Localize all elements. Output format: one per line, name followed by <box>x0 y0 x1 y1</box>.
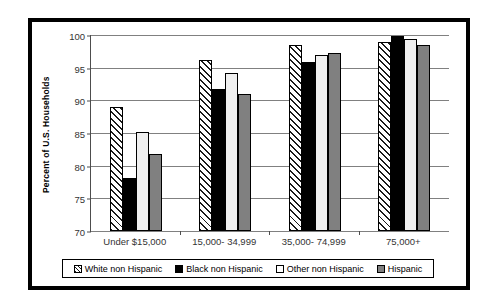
legend-item[interactable]: Other non Hispanic <box>276 264 364 274</box>
bar[interactable] <box>391 36 404 231</box>
y-tick-label: 85 <box>74 129 85 140</box>
gridline: 70 <box>91 231 449 232</box>
plot-area: 707580859095100 <box>90 35 449 232</box>
y-axis-title: Percent of U.S. Households <box>38 40 54 230</box>
bar[interactable] <box>123 178 136 231</box>
chart-legend: White non HispanicBlack non HispanicOthe… <box>62 259 434 278</box>
x-axis-category-label: 15,000- 34,999 <box>180 236 270 247</box>
bars-container <box>289 35 341 231</box>
legend-label: Black non Hispanic <box>186 264 263 274</box>
bar[interactable] <box>417 45 430 231</box>
x-axis-category-label: 75,000+ <box>359 236 449 247</box>
bar[interactable] <box>328 53 341 231</box>
legend-swatch-icon <box>377 265 385 273</box>
legend-item[interactable]: Hispanic <box>377 264 423 274</box>
legend-swatch-icon <box>276 265 284 273</box>
bar[interactable] <box>289 45 302 231</box>
bar[interactable] <box>110 107 123 231</box>
bar[interactable] <box>315 55 328 231</box>
bars-container <box>110 35 162 231</box>
y-tick-label: 70 <box>74 227 85 238</box>
bar-group <box>360 35 450 231</box>
x-axis-category-label: 35,000- 74,999 <box>269 236 359 247</box>
bar[interactable] <box>136 132 149 231</box>
legend-item[interactable]: Black non Hispanic <box>175 264 263 274</box>
bar[interactable] <box>199 60 212 231</box>
x-axis-category-label: Under $15,000 <box>90 236 180 247</box>
y-tick-mark <box>87 232 91 233</box>
x-axis-group-tick <box>359 231 360 235</box>
bar-group <box>270 35 360 231</box>
y-tick-label: 80 <box>74 161 85 172</box>
bar[interactable] <box>212 89 225 231</box>
bar[interactable] <box>238 94 251 231</box>
chart-frame: Percent of U.S. Households 7075808590951… <box>28 18 470 290</box>
y-tick-label: 75 <box>74 194 85 205</box>
bar[interactable] <box>404 39 417 231</box>
plot-wrapper: Percent of U.S. Households 7075808590951… <box>32 22 466 286</box>
chart-screenshot: Percent of U.S. Households 7075808590951… <box>0 0 498 308</box>
y-tick-label: 100 <box>69 31 85 42</box>
x-axis-group-tick <box>180 231 181 235</box>
bar[interactable] <box>302 62 315 231</box>
bar-group <box>181 35 271 231</box>
y-tick-label: 90 <box>74 96 85 107</box>
legend-swatch-icon <box>74 265 82 273</box>
bars-container <box>199 35 251 231</box>
bars-container <box>378 35 430 231</box>
x-axis-labels: Under $15,00015,000- 34,99935,000- 74,99… <box>90 236 448 247</box>
bar[interactable] <box>378 42 391 231</box>
legend-label: White non Hispanic <box>85 264 163 274</box>
legend-label: Other non Hispanic <box>287 264 364 274</box>
legend-label: Hispanic <box>388 264 423 274</box>
x-axis-group-tick <box>269 231 270 235</box>
bar[interactable] <box>225 73 238 231</box>
y-tick-label: 95 <box>74 63 85 74</box>
bar[interactable] <box>149 154 162 231</box>
legend-swatch-icon <box>175 265 183 273</box>
legend-item[interactable]: White non Hispanic <box>74 264 163 274</box>
bar-group <box>91 35 181 231</box>
bar-groups <box>91 35 449 231</box>
